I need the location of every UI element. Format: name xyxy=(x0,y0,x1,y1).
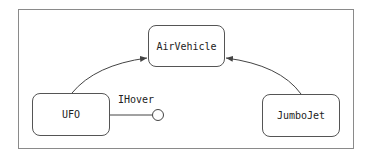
node-airvehicle-label: AirVehicle xyxy=(156,41,216,52)
edge-ufo-to-airvehicle xyxy=(72,58,147,93)
interface-lollipop-icon xyxy=(153,110,164,121)
node-jumbojet[interactable]: JumboJet xyxy=(262,94,340,137)
node-airvehicle[interactable]: AirVehicle xyxy=(148,25,225,67)
node-ufo[interactable]: UFO xyxy=(32,93,110,136)
node-ufo-label: UFO xyxy=(62,109,80,120)
interface-label: IHover xyxy=(118,94,154,105)
node-jumbojet-label: JumboJet xyxy=(277,110,325,121)
edge-jumbojet-to-airvehicle xyxy=(226,58,301,94)
